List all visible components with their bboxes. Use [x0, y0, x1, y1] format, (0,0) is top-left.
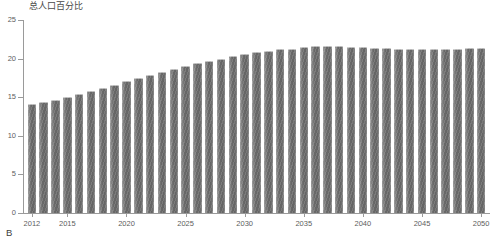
bar — [99, 88, 108, 213]
bar-highlight — [382, 48, 391, 49]
bar-highlight — [122, 81, 131, 82]
bar-highlight — [465, 48, 474, 49]
bar — [181, 66, 190, 213]
bar-highlight — [311, 46, 320, 47]
chart-figure: 总人口百分比 0510152025 2012201520202025203020… — [0, 0, 492, 241]
bar — [465, 48, 474, 213]
y-axis-tick — [18, 97, 23, 98]
x-axis-tick — [245, 213, 246, 217]
bar-highlight — [359, 47, 368, 48]
y-axis-tick-label: 10 — [8, 132, 16, 140]
bar — [311, 46, 320, 213]
x-axis-tick — [32, 213, 33, 217]
bar-highlight — [288, 49, 297, 50]
bar-highlight — [229, 56, 238, 57]
bar — [359, 47, 368, 213]
bar-highlight — [441, 49, 450, 50]
bar-highlight — [205, 61, 214, 62]
bar-highlight — [217, 59, 226, 60]
bar — [300, 47, 309, 213]
y-axis-tick — [18, 59, 23, 60]
bar — [217, 59, 226, 213]
bar — [370, 48, 379, 213]
bar — [28, 104, 37, 213]
bar — [205, 61, 214, 213]
y-axis-tick-label: 0 — [12, 209, 16, 217]
bar-highlight — [276, 49, 285, 50]
bar-highlight — [300, 47, 309, 48]
bar — [87, 91, 96, 213]
bar — [441, 49, 450, 213]
y-axis-tick-label: 25 — [8, 16, 16, 24]
x-axis-tick-label: 2025 — [177, 219, 194, 228]
y-axis-tick-label-wrap: 15 — [0, 93, 16, 101]
x-axis-tick — [126, 213, 127, 217]
bar-highlight — [158, 72, 167, 73]
bar-highlight — [146, 75, 155, 76]
y-axis-tick-label: 20 — [8, 55, 16, 63]
bar-highlight — [323, 46, 332, 47]
panel-label: B — [6, 227, 12, 238]
bar-highlight — [453, 49, 462, 50]
x-axis-tick-label: 2015 — [59, 219, 76, 228]
bar-highlight — [394, 49, 403, 50]
x-axis-tick-label: 2035 — [295, 219, 312, 228]
bar — [75, 94, 84, 213]
bar — [134, 78, 143, 213]
bar — [51, 100, 60, 213]
bar-highlight — [87, 91, 96, 92]
x-axis-tick — [422, 213, 423, 217]
bar-highlight — [252, 52, 261, 53]
x-axis-tick — [363, 213, 364, 217]
x-axis-tick — [481, 213, 482, 217]
bar-highlight — [193, 63, 202, 64]
x-axis-tick — [304, 213, 305, 217]
bar — [110, 85, 119, 213]
y-axis-tick-label-wrap: 0 — [0, 209, 16, 217]
bar — [122, 81, 131, 213]
chart-title: 总人口百分比 — [29, 0, 83, 12]
bar-highlight — [477, 48, 486, 49]
bar-highlight — [39, 102, 48, 103]
bar — [158, 72, 167, 213]
bar — [430, 49, 439, 213]
bar — [170, 69, 179, 213]
bar — [229, 56, 238, 213]
bar-highlight — [370, 48, 379, 49]
bar-highlight — [335, 46, 344, 47]
x-axis-tick-label: 2045 — [414, 219, 431, 228]
bar — [347, 47, 356, 213]
x-axis-tick-label: 2020 — [118, 219, 135, 228]
bar-highlight — [170, 69, 179, 70]
bar-highlight — [99, 88, 108, 89]
y-axis-tick-label: 5 — [12, 170, 16, 178]
bar-highlight — [63, 97, 72, 98]
x-axis-tick — [67, 213, 68, 217]
bar — [418, 49, 427, 213]
bar — [288, 49, 297, 213]
x-axis-tick-label: 2050 — [473, 219, 490, 228]
bar-highlight — [264, 51, 273, 52]
bar — [252, 52, 261, 213]
bar — [382, 48, 391, 213]
bar-highlight — [134, 78, 143, 79]
y-axis-tick-label-wrap: 10 — [0, 132, 16, 140]
bar — [477, 48, 486, 213]
bar-highlight — [51, 100, 60, 101]
bar — [394, 49, 403, 213]
bar — [335, 46, 344, 213]
bar-highlight — [110, 85, 119, 86]
y-axis-tick-label-wrap: 25 — [0, 16, 16, 24]
bar-highlight — [430, 49, 439, 50]
y-axis-tick — [18, 174, 23, 175]
bar — [264, 51, 273, 213]
bar — [146, 75, 155, 213]
bar-highlight — [418, 49, 427, 50]
bar-highlight — [240, 54, 249, 55]
bar — [276, 49, 285, 213]
bar-highlight — [28, 104, 37, 105]
x-axis-tick — [186, 213, 187, 217]
bar — [193, 63, 202, 213]
x-axis-tick-label: 2030 — [236, 219, 253, 228]
y-axis-tick-label-wrap: 5 — [0, 170, 16, 178]
